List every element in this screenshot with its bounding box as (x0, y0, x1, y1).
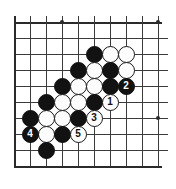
stone-white-c3r6[interactable] (54, 110, 71, 127)
move-number-label: 3 (91, 113, 97, 123)
stone-black-move-4[interactable]: 4 (22, 126, 39, 143)
stone-black-c5r5[interactable] (86, 94, 103, 111)
stone-white-c4r4[interactable] (70, 78, 87, 95)
stone-black-c5r2[interactable] (86, 46, 103, 63)
grid-line-horizontal-9 (14, 166, 162, 168)
move-number-label: 1 (107, 97, 113, 107)
stone-black-c3r4[interactable] (54, 78, 71, 95)
grid-line-vertical-8 (142, 16, 143, 166)
stone-white-c6r2[interactable] (102, 46, 119, 63)
move-number-label: 4 (27, 129, 33, 139)
stone-black-c1r6[interactable] (22, 110, 39, 127)
stone-black-c4r6[interactable] (70, 110, 87, 127)
stone-white-c7r2[interactable] (118, 46, 135, 63)
grid-line-horizontal-0 (14, 22, 162, 24)
stone-black-c4r3[interactable] (70, 62, 87, 79)
star-point-right-mid (156, 116, 160, 120)
stone-white-move-1[interactable]: 1 (102, 94, 119, 111)
stone-white-c4r5[interactable] (70, 94, 87, 111)
stone-black-c6r4[interactable] (102, 78, 119, 95)
grid-line-horizontal-1 (14, 38, 168, 39)
stone-white-c2r7[interactable] (38, 126, 55, 143)
stone-black-c2r5[interactable] (38, 94, 55, 111)
move-number-label: 2 (123, 81, 129, 91)
star-point-top-left (60, 20, 64, 24)
stone-white-c5r3[interactable] (86, 62, 103, 79)
stone-black-c2r8[interactable] (38, 142, 55, 159)
stone-white-move-3[interactable]: 3 (86, 110, 103, 127)
stone-black-c3r7[interactable] (54, 126, 71, 143)
star-point-top-right (156, 20, 160, 24)
goban-grid[interactable]: 21345 (0, 0, 176, 189)
stone-black-c6r3[interactable] (102, 62, 119, 79)
stone-white-c2r6[interactable] (38, 110, 55, 127)
stone-white-move-5[interactable]: 5 (70, 126, 87, 143)
stone-white-c3r5[interactable] (54, 94, 71, 111)
go-board-diagram: 21345 (0, 0, 176, 189)
move-number-label: 5 (75, 129, 81, 139)
stone-white-c7r3[interactable] (118, 62, 135, 79)
stone-white-c5r4[interactable] (86, 78, 103, 95)
grid-line-vertical-0 (14, 16, 16, 166)
stone-black-move-2[interactable]: 2 (118, 78, 135, 95)
grid-line-vertical-9 (158, 16, 159, 166)
grid-line-vertical-1 (30, 16, 31, 166)
